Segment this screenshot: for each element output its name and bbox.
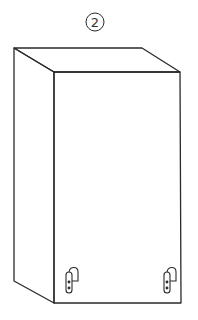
- cabinet-drawing: [0, 0, 198, 320]
- left-hinge-icon: [66, 268, 78, 294]
- top-face: [14, 48, 180, 72]
- side-face: [14, 48, 54, 303]
- right-hinge-icon: [164, 268, 176, 294]
- figure-number: 2: [84, 12, 106, 34]
- cabinet-box: [14, 48, 181, 303]
- front-face: [54, 72, 181, 303]
